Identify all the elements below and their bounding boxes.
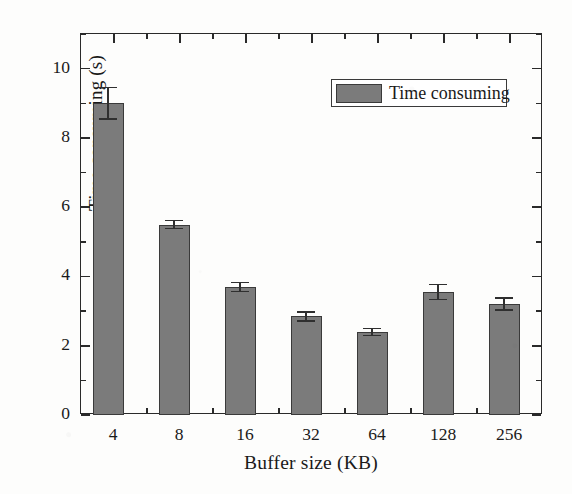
error-bar-line-128 [437, 284, 439, 299]
x-tick-minor [212, 408, 213, 413]
x-tick-label: 128 [413, 426, 473, 444]
y-tick-major [532, 68, 541, 70]
x-tick-major [311, 34, 313, 43]
y-tick-minor [536, 33, 541, 34]
error-bar-cap-32-lower [297, 320, 315, 322]
y-tick-label: 4 [24, 266, 70, 284]
bar-64 [357, 332, 388, 415]
x-tick-label: 32 [281, 426, 341, 444]
y-tick-minor [81, 241, 86, 242]
x-tick-minor [212, 34, 213, 39]
error-bar-cap-8-upper [165, 220, 183, 222]
y-tick-major [81, 68, 90, 70]
y-tick-minor [536, 310, 541, 311]
y-tick-major [81, 414, 90, 416]
y-tick-major [81, 206, 90, 208]
x-tick-minor [344, 408, 345, 413]
x-tick-minor [278, 34, 279, 39]
y-tick-minor [81, 380, 86, 381]
error-bar-cap-128-upper [429, 284, 447, 286]
x-tick-major [179, 34, 181, 43]
legend-swatch-time-consuming [336, 84, 382, 103]
bar-4 [93, 103, 124, 415]
y-tick-label: 8 [24, 128, 70, 146]
error-bar-line-4 [107, 88, 109, 119]
legend-label-time-consuming: Time consuming [389, 83, 510, 104]
x-tick-minor [410, 34, 411, 39]
x-tick-minor [410, 408, 411, 413]
error-bar-cap-32-upper [297, 311, 315, 313]
error-bar-cap-8-lower [165, 228, 183, 230]
y-tick-major [81, 137, 90, 139]
x-tick-minor [278, 408, 279, 413]
y-tick-label: 0 [24, 405, 70, 423]
x-tick-label: 256 [479, 426, 539, 444]
x-tick-major [509, 34, 511, 43]
error-bar-cap-64-lower [363, 335, 381, 337]
error-bar-cap-16-upper [231, 282, 249, 284]
x-tick-major [443, 34, 445, 43]
bar-8 [159, 225, 190, 416]
x-tick-label: 4 [83, 426, 143, 444]
y-tick-minor [81, 310, 86, 311]
y-tick-major [81, 276, 90, 278]
x-tick-major [377, 34, 379, 43]
x-tick-minor [476, 408, 477, 413]
error-bar-cap-4-upper [99, 87, 117, 89]
x-axis-title: Buffer size (KB) [80, 452, 542, 474]
error-bar-cap-16-lower [231, 291, 249, 293]
y-tick-minor [81, 33, 86, 34]
y-tick-minor [536, 103, 541, 104]
error-bar-cap-128-lower [429, 299, 447, 301]
error-bar-cap-64-upper [363, 328, 381, 330]
x-tick-minor [476, 34, 477, 39]
y-tick-major [532, 276, 541, 278]
bar-256 [489, 304, 520, 415]
bar-16 [225, 287, 256, 415]
y-tick-major [532, 345, 541, 347]
y-tick-minor [81, 172, 86, 173]
bar-32 [291, 316, 322, 415]
y-tick-label: 10 [24, 59, 70, 77]
x-tick-minor [146, 34, 147, 39]
error-bar-cap-4-lower [99, 118, 117, 120]
y-tick-minor [536, 172, 541, 173]
x-tick-major [245, 34, 247, 43]
error-bar-cap-256-upper [495, 297, 513, 299]
x-tick-major [113, 34, 115, 43]
figure-canvas: Time consuming (s) 0246810 Time consumin… [0, 0, 572, 494]
error-bar-cap-256-lower [495, 309, 513, 311]
y-tick-major [81, 345, 90, 347]
plot-area: Time consuming [80, 33, 542, 414]
y-tick-minor [81, 103, 86, 104]
y-tick-minor [536, 380, 541, 381]
y-tick-minor [536, 241, 541, 242]
y-tick-major [532, 137, 541, 139]
y-tick-label: 2 [24, 336, 70, 354]
x-tick-label: 8 [149, 426, 209, 444]
y-tick-major [532, 414, 541, 416]
x-tick-label: 16 [215, 426, 275, 444]
x-tick-label: 64 [347, 426, 407, 444]
y-tick-label: 6 [24, 197, 70, 215]
x-tick-minor [146, 408, 147, 413]
bar-128 [423, 292, 454, 415]
x-tick-minor [344, 34, 345, 39]
y-tick-major [532, 206, 541, 208]
legend-box[interactable]: Time consuming [331, 79, 507, 107]
